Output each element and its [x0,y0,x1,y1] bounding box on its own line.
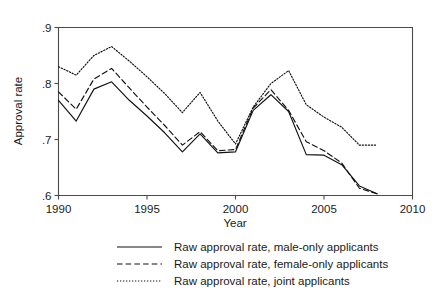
legend-label: Raw approval rate, female-only applicant… [174,258,388,270]
x-tick-label: 1995 [134,203,160,215]
x-tick-label: 2000 [223,203,249,215]
y-axis-title: Approval rate [12,77,24,145]
approval-rate-line-chart: .6.7.8.9 19901995200020052010 Approval r… [0,0,433,300]
x-tick-label: 2005 [311,203,337,215]
legend-label: Raw approval rate, joint applicants [174,275,350,287]
y-tick-label: .7 [42,134,52,146]
y-tick-label: .9 [42,22,52,34]
x-tick-label: 1990 [46,203,72,215]
x-tick-label: 2010 [400,203,426,215]
legend-label: Raw approval rate, male-only applicants [174,241,379,253]
y-tick-label: .6 [42,190,52,202]
y-tick-label: .8 [42,78,52,90]
x-axis-title: Year [223,217,246,229]
chart-figure: .6.7.8.9 19901995200020052010 Approval r… [0,0,433,300]
